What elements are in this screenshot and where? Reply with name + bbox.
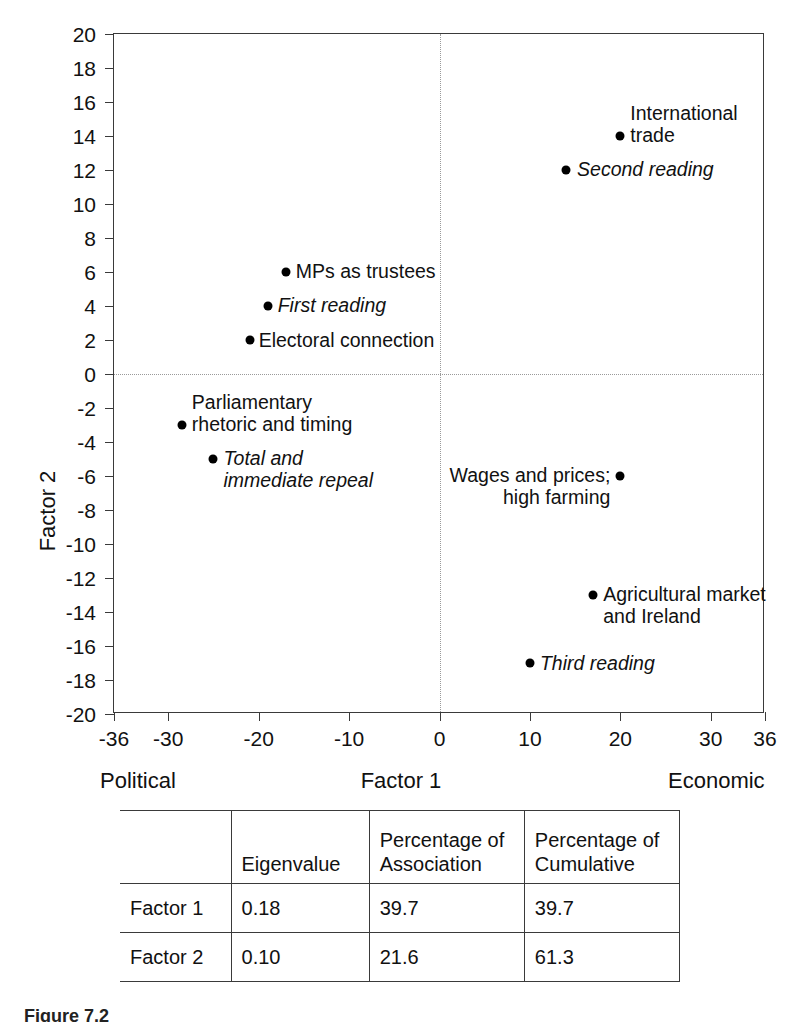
y-tick-label: -12 [66,568,96,589]
y-tick-label: 6 [84,262,96,283]
data-point[interactable] [263,302,272,311]
y-tick [105,170,114,171]
y-tick-label: 4 [84,296,96,317]
figure-caption: Figure 7.2 [24,1006,109,1022]
y-tick-label: -10 [66,534,96,555]
y-tick-label: -6 [77,466,96,487]
y-tick-label: 0 [84,364,96,385]
x-tick [711,712,712,721]
y-tick-label: 10 [73,194,96,215]
data-point[interactable] [177,421,186,430]
data-point[interactable] [562,166,571,175]
table-header-blank [120,811,231,884]
x-tick [440,712,441,721]
y-tick-label: 8 [84,228,96,249]
y-tick [105,544,114,545]
table-header-association: Percentage of Association [369,811,524,884]
data-point[interactable] [245,336,254,345]
y-tick-label: 20 [73,24,96,45]
data-point[interactable] [209,455,218,464]
y-tick [105,408,114,409]
x-tick [114,712,115,721]
data-point-label: Parliamentary rhetoric and timing [192,392,352,436]
table-row: Factor 10.1839.739.7 [120,884,680,933]
data-point-label: International trade [630,103,737,147]
y-tick-label: 2 [84,330,96,351]
cumulative-cell: 61.3 [524,933,679,982]
y-tick-label: -20 [66,704,96,725]
y-tick [105,306,114,307]
data-point-label: Electoral connection [259,330,435,352]
y-tick [105,714,114,715]
x-tick [168,712,169,721]
x-tick-label: 10 [518,728,541,749]
x-tick-label: -20 [243,728,273,749]
data-point[interactable] [589,591,598,600]
data-point[interactable] [525,659,534,668]
table-row: Factor 20.1021.661.3 [120,933,680,982]
factor-name: Factor 1 [120,884,231,933]
data-point[interactable] [616,472,625,481]
x-tick-label: 36 [753,728,776,749]
scatter-plot-area: 20181614121086420-2-4-6-8-10-12-14-16-18… [113,33,764,713]
x-tick [530,712,531,721]
x-axis-pole-left: Political [100,768,176,794]
cumulative-cell: 39.7 [524,884,679,933]
data-point-label: Wages and prices; high farming [450,465,611,509]
vertical-zero-gridline [440,34,441,712]
data-point[interactable] [281,268,290,277]
y-tick [105,578,114,579]
data-point-label: Agricultural market and Ireland [603,584,766,628]
y-tick-label: 12 [73,160,96,181]
table-header-eigenvalue: Eigenvalue [231,811,369,884]
x-tick-label: -30 [153,728,183,749]
y-tick [105,612,114,613]
y-tick [105,374,114,375]
y-tick-label: -4 [77,432,96,453]
y-tick [105,476,114,477]
y-tick [105,646,114,647]
y-tick-label: -8 [77,500,96,521]
y-tick [105,204,114,205]
y-tick-label: -16 [66,636,96,657]
x-tick [765,712,766,721]
data-point[interactable] [616,132,625,141]
data-point-label: MPs as trustees [296,261,436,283]
x-tick-label: -10 [334,728,364,749]
table-header-row: Eigenvalue Percentage of Association Per… [120,811,680,884]
x-tick [259,712,260,721]
data-point-label: First reading [278,295,386,317]
y-tick [105,136,114,137]
y-tick-label: -18 [66,670,96,691]
y-tick-label: 16 [73,92,96,113]
y-tick-label: 14 [73,126,96,147]
x-tick [620,712,621,721]
y-tick [105,680,114,681]
y-tick [105,272,114,273]
y-tick-label: -2 [77,398,96,419]
y-tick [105,510,114,511]
y-tick [105,102,114,103]
eigenvalue-cell: 0.18 [231,884,369,933]
table-header-cumulative: Percentage of Cumulative [524,811,679,884]
y-tick [105,442,114,443]
x-tick [349,712,350,721]
y-tick [105,34,114,35]
y-tick [105,340,114,341]
y-tick-label: -14 [66,602,96,623]
data-point-label: Total and immediate repeal [223,448,373,492]
eigenvalue-cell: 0.10 [231,933,369,982]
x-axis-pole-right: Economic [668,768,765,794]
y-tick-label: 18 [73,58,96,79]
y-axis-title: Factor 2 [35,471,61,552]
data-point-label: Second reading [577,159,714,181]
x-tick-label: 20 [609,728,632,749]
data-point-label: Third reading [540,653,655,675]
x-tick-label: 0 [434,728,446,749]
x-tick-label: 30 [699,728,722,749]
y-tick [105,68,114,69]
horizontal-zero-gridline [114,374,763,375]
factor-statistics-table: Eigenvalue Percentage of Association Per… [120,810,680,982]
y-tick [105,238,114,239]
association-cell: 39.7 [369,884,524,933]
